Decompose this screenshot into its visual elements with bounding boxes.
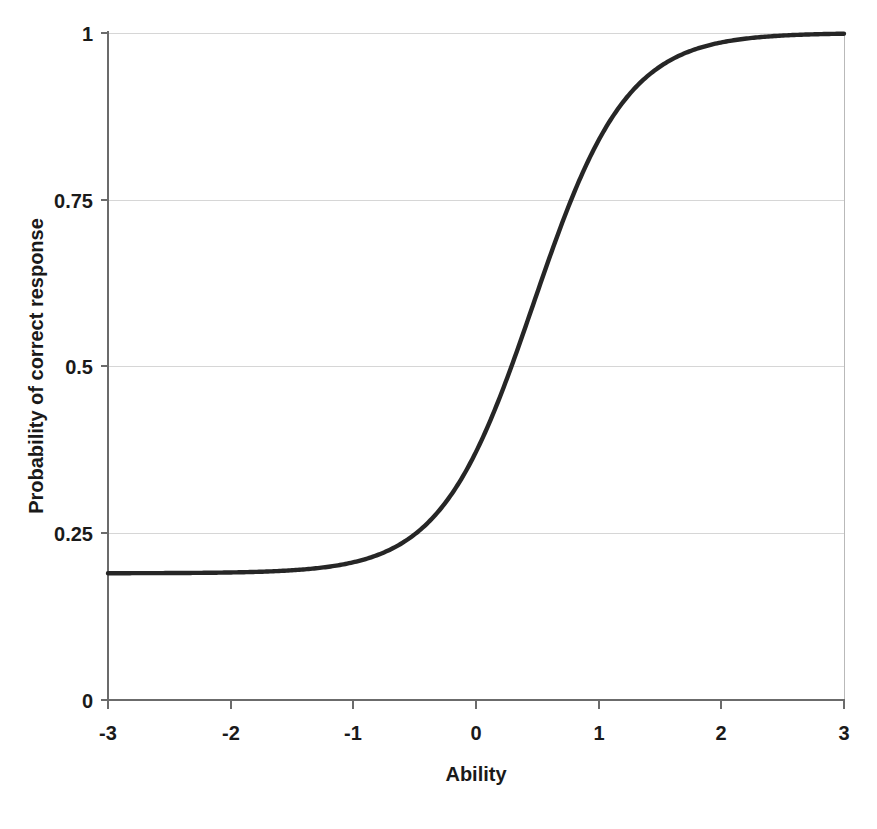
x-tick-label-minus1: -1 (344, 722, 362, 744)
x-tick-label-2: 2 (715, 722, 726, 744)
chart-container: 1 0.75 0.5 0.25 0 -3 -2 -1 0 1 2 3 Abili… (0, 0, 877, 829)
x-tick-label-1: 1 (593, 722, 604, 744)
x-axis-tick-labels: -3 -2 -1 0 1 2 3 (99, 722, 849, 744)
x-tick-label-0: 0 (470, 722, 481, 744)
y-tick-label-0: 0 (82, 690, 93, 712)
y-tick-label-0-5: 0.5 (65, 356, 93, 378)
x-axis-title: Ability (445, 763, 507, 785)
x-axis-ticks (108, 700, 844, 709)
y-tick-label-1: 1 (82, 23, 93, 45)
x-tick-label-minus2: -2 (222, 722, 240, 744)
y-tick-label-0-25: 0.25 (54, 523, 93, 545)
x-tick-label-3: 3 (838, 722, 849, 744)
y-axis-ticks (101, 33, 108, 700)
y-axis-title: Probability of correct response (25, 218, 47, 514)
y-tick-label-0-75: 0.75 (54, 190, 93, 212)
y-axis-tick-labels: 1 0.75 0.5 0.25 0 (54, 23, 93, 712)
x-tick-label-minus3: -3 (99, 722, 117, 744)
item-characteristic-curve-chart: 1 0.75 0.5 0.25 0 -3 -2 -1 0 1 2 3 Abili… (0, 0, 877, 829)
